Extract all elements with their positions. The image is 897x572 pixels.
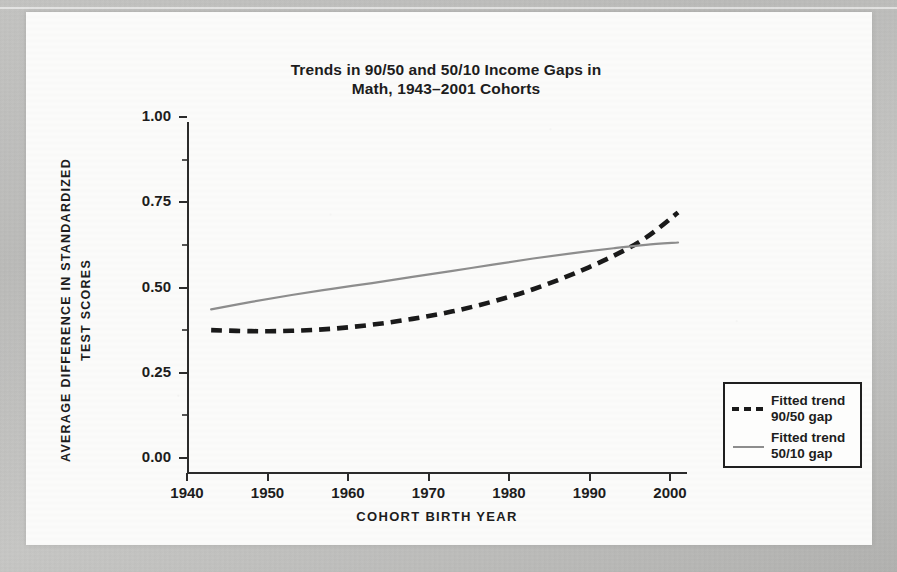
solid-line-icon bbox=[732, 439, 766, 453]
scan-edge-line bbox=[0, 7, 897, 9]
legend-item-2[interactable]: Fitted trend 50/10 gap bbox=[725, 427, 860, 464]
series-line-2 bbox=[211, 242, 678, 309]
legend-item-label: Fitted trend 90/50 gap bbox=[771, 393, 845, 425]
chart-legend: Fitted trend 90/50 gapFitted trend 50/10… bbox=[723, 382, 862, 468]
dashed-line-icon bbox=[732, 402, 766, 416]
legend-item-1[interactable]: Fitted trend 90/50 gap bbox=[725, 390, 860, 427]
chart-page: Trends in 90/50 and 50/10 Income Gaps in… bbox=[26, 12, 872, 545]
legend-item-label: Fitted trend 50/10 gap bbox=[771, 430, 845, 462]
